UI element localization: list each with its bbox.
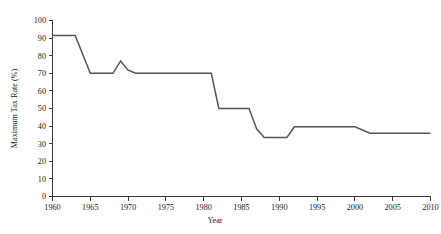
y-tick-label-40: 40 (38, 122, 46, 131)
x-tick-label-1980: 1980 (196, 203, 212, 212)
x-tick-label-1960: 1960 (44, 203, 60, 212)
x-tick-label-1975: 1975 (158, 203, 174, 212)
x-tick-label-1985: 1985 (233, 203, 249, 212)
y-tick-label-90: 90 (38, 34, 46, 43)
x-tick-label-1990: 1990 (271, 203, 287, 212)
y-axis-tick-labels: 0 10 20 30 40 50 60 70 80 90 100 (34, 16, 46, 201)
chart-figure: 0 10 20 30 40 50 60 70 80 90 100 (0, 0, 441, 234)
x-axis-title: Year (207, 216, 222, 225)
y-tick-label-60: 60 (38, 87, 46, 96)
y-tick-label-20: 20 (38, 157, 46, 166)
y-tick-label-10: 10 (38, 175, 46, 184)
x-tick-label-2010: 2010 (422, 203, 438, 212)
x-axis-tick-labels: 1960 1965 1970 1975 1980 1985 1990 1995 … (44, 203, 438, 212)
x-tick-label-1965: 1965 (82, 203, 98, 212)
y-tick-label-100: 100 (34, 16, 46, 25)
y-tick-label-30: 30 (38, 140, 46, 149)
y-tick-label-50: 50 (38, 104, 46, 113)
y-tick-label-0: 0 (42, 192, 46, 201)
x-axis-ticks (53, 197, 431, 201)
y-axis-ticks (49, 21, 53, 197)
x-tick-label-1970: 1970 (120, 203, 136, 212)
y-axis-title: Maximum Tax Rate (%) (10, 68, 19, 148)
y-tick-label-80: 80 (38, 52, 46, 61)
x-tick-label-1995: 1995 (309, 203, 325, 212)
x-tick-label-2000: 2000 (347, 203, 363, 212)
x-tick-label-2005: 2005 (385, 203, 401, 212)
line-chart: 0 10 20 30 40 50 60 70 80 90 100 (0, 0, 441, 234)
y-tick-label-70: 70 (38, 69, 46, 78)
data-series-maximum-tax-rate (53, 35, 431, 137)
